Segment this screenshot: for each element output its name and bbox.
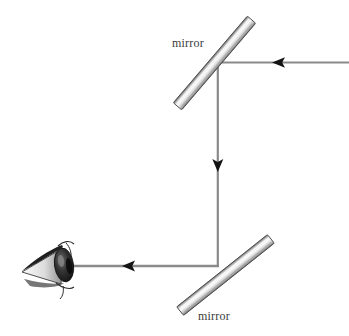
eye-icon bbox=[22, 242, 76, 299]
ray-diagram-figure: mirror mirror bbox=[0, 0, 349, 336]
mirror-bottom-shadowline bbox=[184, 243, 270, 311]
mirror-bottom-body bbox=[177, 235, 275, 316]
mirror-top-label: mirror bbox=[172, 36, 204, 51]
mirror-bottom-highlight bbox=[181, 239, 267, 307]
eye-lash-upper bbox=[58, 242, 74, 246]
outgoing-ray-to-eye bbox=[66, 261, 219, 272]
light-rays bbox=[66, 57, 349, 271]
mirror-bottom-label: mirror bbox=[198, 309, 230, 324]
eye-contour-lower bbox=[60, 286, 63, 299]
mirror-bottom bbox=[177, 235, 275, 316]
incoming-ray-top bbox=[218, 57, 349, 68]
vertical-ray bbox=[212, 62, 223, 268]
